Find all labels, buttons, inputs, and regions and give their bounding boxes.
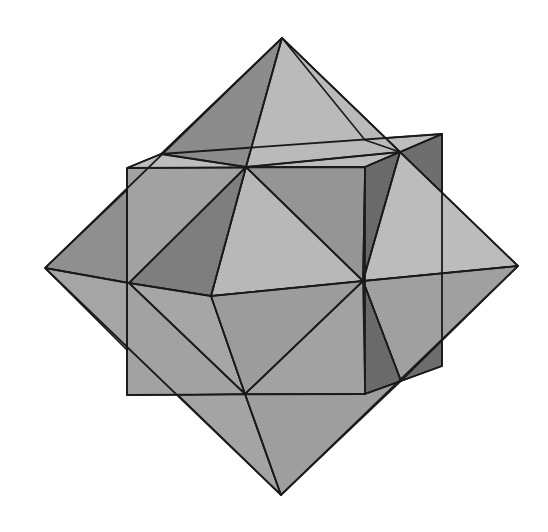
oct-face-left-upper — [45, 190, 129, 283]
cube-octahedron-compound — [0, 0, 548, 532]
